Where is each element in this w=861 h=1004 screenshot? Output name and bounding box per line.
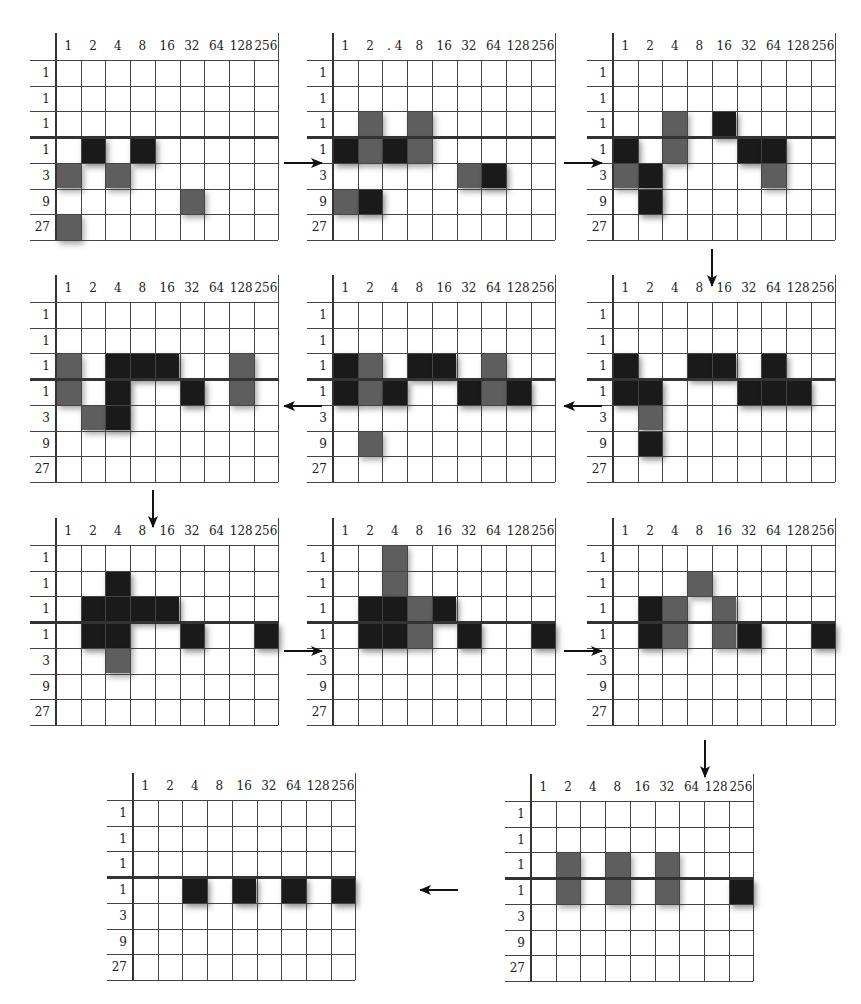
grid-vline [811, 302, 812, 482]
row-label: 1 [505, 833, 525, 847]
grid-vline [204, 60, 205, 240]
grid-vline [281, 800, 282, 980]
grid-vline [704, 801, 705, 981]
grid-hline [587, 328, 835, 329]
grid-vline [155, 545, 156, 725]
grid-hline [307, 674, 555, 675]
grid-vline [407, 60, 408, 240]
grid-hline [587, 545, 835, 546]
grid-vline [105, 302, 106, 482]
gray-cell [761, 163, 786, 189]
gray-cell [655, 852, 680, 878]
grid-vline [105, 60, 106, 240]
grid-hline [307, 189, 555, 190]
grid-vline [81, 302, 82, 482]
grid-hline [107, 929, 355, 930]
dark-cell [432, 596, 457, 622]
grid-hline [587, 725, 835, 726]
grid-vline [207, 800, 208, 980]
grid-vline [229, 545, 230, 725]
row-label: 27 [307, 220, 327, 234]
grid-vline [254, 60, 255, 240]
grid-vline [481, 302, 482, 482]
grid-vline [687, 545, 688, 725]
grid-vline [407, 545, 408, 725]
dark-cell [155, 353, 180, 379]
dark-cell [130, 137, 155, 163]
right-border [835, 33, 836, 240]
grid-hline [307, 111, 555, 112]
grid-vline [180, 60, 181, 240]
dark-cell [638, 379, 663, 405]
row-label: 9 [587, 680, 607, 694]
grid-vline [155, 60, 156, 240]
gray-cell [613, 163, 638, 189]
row-label: 1 [505, 807, 525, 821]
right-border [278, 518, 279, 725]
dark-cell [613, 137, 638, 163]
column-label: 256 [328, 779, 359, 793]
grid-vline [531, 545, 532, 725]
dark-cell [331, 877, 356, 903]
gray-cell [407, 596, 432, 622]
dark-cell [180, 379, 205, 405]
row-label: 9 [30, 680, 50, 694]
dark-cell [358, 622, 383, 648]
dark-cell [81, 622, 106, 648]
grid-hline [30, 302, 278, 303]
row-label: 1 [307, 602, 327, 616]
dark-cell [232, 877, 257, 903]
grid-vline [358, 60, 359, 240]
grid-vline [182, 800, 183, 980]
grid-hline [587, 189, 835, 190]
row-label: 9 [505, 936, 525, 950]
grid-hline [587, 405, 835, 406]
row-label: 1 [587, 92, 607, 106]
row-label: 27 [30, 220, 50, 234]
grid-vline [204, 302, 205, 482]
dark-cell [382, 622, 407, 648]
grid-hline [307, 545, 555, 546]
grid-hline [107, 851, 355, 852]
gray-cell [358, 353, 383, 379]
gray-cell [333, 189, 358, 215]
dark-cell [382, 379, 407, 405]
grid-hline [587, 431, 835, 432]
grid-hline [307, 725, 555, 726]
grid-vline [662, 302, 663, 482]
midline [107, 876, 355, 879]
grid-hline [30, 163, 278, 164]
dark-cell [638, 622, 663, 648]
row-label: 1 [307, 551, 327, 565]
right-border [835, 518, 836, 725]
midline [30, 136, 278, 139]
grid-hline [587, 699, 835, 700]
grid-hline [30, 189, 278, 190]
row-label: 1 [587, 334, 607, 348]
grid-hline [505, 827, 753, 828]
grid-hline [30, 648, 278, 649]
grid-vline [306, 800, 307, 980]
gray-cell [407, 111, 432, 137]
row-label: 1 [587, 143, 607, 157]
row-label: 1 [30, 308, 50, 322]
dark-cell [506, 379, 531, 405]
grid-hline [587, 163, 835, 164]
grid-hline [587, 456, 835, 457]
row-label: 1 [30, 359, 50, 373]
grid-hline [30, 111, 278, 112]
grid-hline [107, 800, 355, 801]
row-label: 1 [307, 385, 327, 399]
row-label: 3 [30, 169, 50, 183]
row-label: 1 [30, 628, 50, 642]
grid-vline [130, 302, 131, 482]
gray-cell [556, 852, 581, 878]
dark-cell [712, 111, 737, 137]
grid-vline [180, 545, 181, 725]
row-label: 3 [307, 654, 327, 668]
grid-vline [737, 60, 738, 240]
row-label: 27 [307, 462, 327, 476]
dark-cell [531, 622, 556, 648]
row-label: 9 [307, 437, 327, 451]
column-label: 256 [528, 524, 559, 538]
